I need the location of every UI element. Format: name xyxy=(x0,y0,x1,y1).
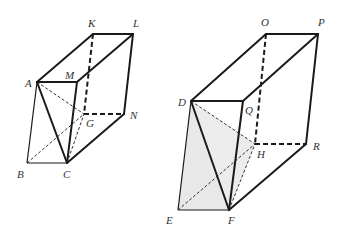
label-D: D xyxy=(177,96,186,108)
left-prism: K L A M G N B C xyxy=(17,17,139,180)
label-Q: Q xyxy=(245,104,253,116)
label-H: H xyxy=(256,148,266,160)
edge-AC xyxy=(37,82,67,163)
label-G: G xyxy=(86,117,94,129)
label-L: L xyxy=(132,17,139,29)
diagram-canvas: K L A M G N B C O P D Q H R xyxy=(0,0,341,236)
label-M: M xyxy=(64,69,75,81)
label-C: C xyxy=(63,168,71,180)
label-R: R xyxy=(312,140,320,152)
right-prism: O P D Q H R E F xyxy=(165,16,325,226)
label-N: N xyxy=(129,109,138,121)
edge-PR xyxy=(306,34,318,144)
edge-AB xyxy=(27,82,37,163)
label-P: P xyxy=(317,16,325,28)
label-E: E xyxy=(165,214,173,226)
label-A: A xyxy=(24,77,32,89)
label-F: F xyxy=(227,214,235,226)
edge-LN xyxy=(124,34,133,114)
label-O: O xyxy=(261,16,269,28)
edge-MC xyxy=(67,82,77,163)
label-K: K xyxy=(87,17,96,29)
label-B: B xyxy=(17,168,24,180)
